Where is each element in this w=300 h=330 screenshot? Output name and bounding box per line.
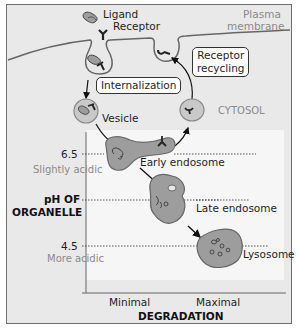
late-endosome-shape	[150, 175, 185, 224]
y-tick-4-5-note: More acidic	[47, 254, 104, 264]
receptor-recycling-line2: recycling	[197, 62, 244, 74]
x-axis-max-label: Maximal	[196, 297, 240, 308]
receptor-recycling-label: Receptor recycling	[192, 47, 249, 77]
lysosome-shape	[197, 229, 242, 267]
early-endosome-label: Early endosome	[140, 157, 225, 168]
x-axis-title: DEGRADATION	[138, 311, 224, 322]
ligand-receptor-complex-icon	[88, 55, 104, 70]
y-axis-title-line2: ORGANELLE	[12, 207, 82, 218]
ligand-icon	[83, 12, 97, 23]
y-axis-title-line1: pH OF	[44, 194, 80, 205]
y-tick-6-5-note: Slightly acidic	[33, 165, 102, 175]
plasma-membrane-label-line2: membrane	[227, 21, 284, 32]
y-tick-4-5: 4.5	[61, 241, 78, 252]
lysosome-label: Lysosome	[243, 249, 295, 260]
receptor-icon	[99, 30, 107, 40]
ligand-label: Ligand	[103, 9, 138, 20]
receptor-recycling-line1: Receptor	[197, 49, 244, 61]
recycling-vesicle-shape	[180, 99, 204, 121]
x-axis-min-label: Minimal	[109, 297, 150, 308]
vesicle-label: Vesicle	[102, 113, 138, 124]
y-tick-6-5: 6.5	[61, 149, 78, 160]
vesicle-shape	[74, 99, 98, 123]
internalization-label: Internalization	[96, 77, 181, 94]
cytosol-label: CYTOSOL	[218, 106, 265, 116]
receptor-label: Receptor	[113, 21, 160, 32]
recycled-receptor-icon	[158, 50, 170, 54]
late-endosome-label: Late endosome	[196, 203, 277, 214]
plasma-membrane-label-line1: Plasma	[243, 9, 281, 20]
